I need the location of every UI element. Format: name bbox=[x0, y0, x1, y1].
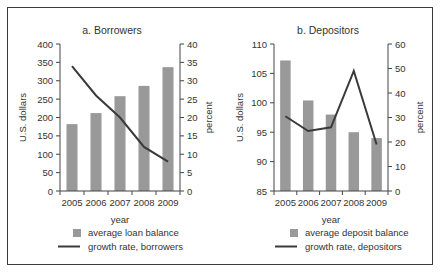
y-tick-label: 100 bbox=[251, 97, 267, 108]
y-tick-label: 90 bbox=[256, 156, 267, 167]
y2-axis-title: percent bbox=[203, 101, 214, 133]
chart-title: a. Borrowers bbox=[82, 24, 142, 36]
y2-tick-label: 50 bbox=[395, 63, 406, 74]
x-tick-label: 2008 bbox=[133, 197, 154, 208]
x-tick-label: 2009 bbox=[157, 197, 178, 208]
y2-tick-label: 60 bbox=[395, 39, 406, 50]
bar bbox=[349, 132, 359, 191]
y2-tick-label: 0 bbox=[395, 186, 400, 197]
legend-line-label: growth rate, borrowers bbox=[88, 241, 183, 252]
x-tick-label: 2009 bbox=[366, 197, 387, 208]
chart-title: b. Depositors bbox=[297, 24, 359, 36]
x-tick-label: 2005 bbox=[275, 197, 296, 208]
bar bbox=[66, 124, 77, 191]
y-tick-label: 250 bbox=[37, 94, 53, 105]
bar bbox=[90, 113, 101, 191]
legend-bar-label: average loan balance bbox=[88, 227, 179, 238]
y-tick-label: 200 bbox=[37, 112, 53, 123]
legend-line-label: growth rate, depositors bbox=[305, 241, 402, 252]
bar bbox=[371, 138, 381, 191]
y2-axis-title: percent bbox=[414, 101, 425, 133]
x-axis-title: year bbox=[322, 214, 340, 225]
x-tick-label: 2005 bbox=[61, 197, 82, 208]
y2-tick-label: 40 bbox=[395, 88, 406, 99]
y-tick-label: 110 bbox=[252, 39, 267, 50]
x-tick-label: 2007 bbox=[109, 197, 130, 208]
y2-tick-label: 0 bbox=[187, 186, 192, 197]
y-tick-label: 150 bbox=[37, 130, 53, 141]
y2-tick-label: 25 bbox=[187, 94, 198, 105]
bar bbox=[280, 60, 290, 191]
y2-tick-label: 20 bbox=[187, 112, 198, 123]
y-tick-label: 95 bbox=[256, 127, 267, 138]
y2-tick-label: 10 bbox=[395, 161, 406, 172]
y2-tick-label: 10 bbox=[187, 149, 198, 160]
y2-tick-label: 5 bbox=[187, 167, 192, 178]
figure-canvas: a. Borrowers0501001502002503003504000510… bbox=[0, 0, 442, 274]
x-tick-label: 2006 bbox=[85, 197, 106, 208]
y-tick-label: 0 bbox=[48, 186, 53, 197]
legend-bar-swatch-icon bbox=[73, 229, 81, 237]
y-tick-label: 100 bbox=[37, 149, 53, 160]
y2-tick-label: 30 bbox=[187, 75, 198, 86]
x-tick-label: 2008 bbox=[343, 197, 364, 208]
x-tick-label: 2006 bbox=[298, 197, 319, 208]
chart-depositors: b. Depositors859095100105110010203040506… bbox=[234, 24, 425, 252]
y-axis-title: U.S. dollars bbox=[17, 93, 28, 142]
y2-tick-label: 15 bbox=[187, 130, 198, 141]
bar bbox=[303, 100, 313, 191]
y2-tick-label: 20 bbox=[395, 137, 406, 148]
y-tick-label: 350 bbox=[37, 57, 53, 68]
y-tick-label: 50 bbox=[42, 167, 53, 178]
bar bbox=[114, 96, 125, 191]
y-tick-label: 105 bbox=[251, 68, 267, 79]
chart-borrowers: a. Borrowers0501001502002503003504000510… bbox=[17, 24, 214, 252]
x-axis-title: year bbox=[111, 214, 129, 225]
x-tick-label: 2007 bbox=[320, 197, 341, 208]
y2-tick-label: 35 bbox=[187, 57, 198, 68]
legend-bar-swatch-icon bbox=[290, 229, 298, 237]
y-tick-label: 300 bbox=[37, 75, 53, 86]
legend-bar-label: average deposit balance bbox=[305, 227, 409, 238]
y-tick-label: 400 bbox=[37, 39, 53, 50]
y2-tick-label: 40 bbox=[187, 39, 198, 50]
bar bbox=[138, 86, 149, 191]
y2-tick-label: 30 bbox=[395, 112, 406, 123]
bar bbox=[162, 67, 173, 191]
y-tick-label: 85 bbox=[256, 186, 267, 197]
y-axis-title: U.S. dollars bbox=[234, 93, 245, 142]
